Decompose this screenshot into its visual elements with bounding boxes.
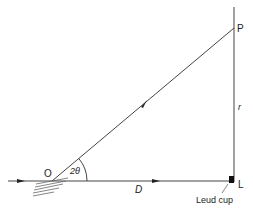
label-l: L (238, 179, 244, 190)
angle-arc (79, 159, 87, 182)
label-p: P (237, 23, 244, 34)
lead-cup-icon (229, 176, 234, 183)
label-r: r (238, 102, 242, 112)
lead-cup-leader (222, 184, 228, 193)
scattered-ray (52, 28, 234, 181)
arrow-incident-icon (17, 179, 25, 183)
label-d: D (135, 184, 142, 195)
scattering-diagram: O 2θ D r P L Leud cup (0, 0, 253, 213)
label-angle: 2θ (69, 166, 80, 176)
arrow-d-icon (152, 179, 160, 183)
arrow-ray-icon (141, 100, 147, 108)
label-o: O (44, 168, 52, 179)
label-lead-cup: Leud cup (196, 195, 233, 205)
